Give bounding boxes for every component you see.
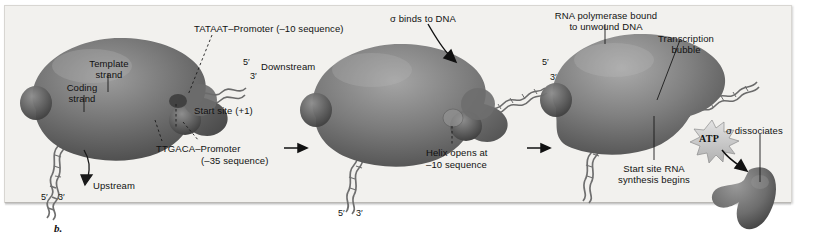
helix-opens-label-line2: –10 sequence <box>426 159 487 170</box>
dissociated-sigma-factor <box>712 167 776 229</box>
five-prime-downstream-panel2: 5′ <box>542 57 549 67</box>
template-strand-label: Template strand <box>82 58 136 80</box>
start-site-label-panel1: Start site (+1) <box>194 105 253 116</box>
helix-opens-label-line1: Helix opens at <box>426 147 488 158</box>
transition-arrow-1 <box>284 144 307 152</box>
transcription-initiation-figure: TATAAT–Promoter (–10 sequence) Template … <box>0 0 826 241</box>
three-prime-downstream-panel1: 3′ <box>250 71 257 81</box>
ttgaca-sequence-box: TTGACA <box>156 143 195 154</box>
sigma-binds-label: σ binds to DNA <box>390 13 456 24</box>
tataat-promoter-label: TATAAT–Promoter (–10 sequence) <box>194 23 344 34</box>
tataat-sequence-box: TATAAT <box>194 23 228 34</box>
atp-label: ATP <box>699 133 719 144</box>
rnap-bound-label: RNA polymerase bound to unwound DNA <box>541 10 671 32</box>
helix-open-region-panel2 <box>443 109 463 127</box>
ttgaca-promoter-text: –Promoter <box>195 143 240 154</box>
figure-caption-letter: b. <box>54 222 62 234</box>
transcription-bubble-label: Transcription bubble <box>650 33 722 55</box>
transition-arrow-2 <box>527 144 550 152</box>
upstream-label: Upstream <box>93 180 135 191</box>
five-prime-upstream-panel2: 5′ <box>338 208 345 218</box>
coding-strand-label: Coding strand <box>57 82 107 104</box>
three-prime-downstream-panel2: 3′ <box>550 72 557 82</box>
five-prime-upstream-panel1: 5′ <box>41 192 48 202</box>
three-prime-upstream-panel1: 3′ <box>58 192 65 202</box>
dna-upstream-panel3 <box>583 180 591 203</box>
panel-2-artwork <box>300 24 547 214</box>
sigma-dissociates-label: σ dissociates <box>726 125 783 136</box>
five-prime-downstream-panel1: 5′ <box>243 57 250 67</box>
tataat-promoter-text: –Promoter (–10 sequence) <box>228 23 343 34</box>
downstream-label: Downstream <box>261 61 315 72</box>
ttgaca-sequence-sub-label: (–35 sequence) <box>201 155 268 166</box>
three-prime-upstream-panel2: 3′ <box>356 208 363 218</box>
dna-upstream-panel2 <box>346 192 354 214</box>
ttgaca-promoter-label: TTGACA–Promoter <box>156 143 240 154</box>
start-site-rna-label: Start site RNA synthesis begins <box>604 163 704 185</box>
